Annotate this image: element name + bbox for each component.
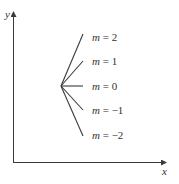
x-axis-label: x [161,165,167,177]
line-m-neg1 [61,86,83,110]
line-m-2 [61,34,83,86]
label-m-2: m = 2 [92,31,117,43]
slope-lines [61,34,83,136]
line-m-1 [61,61,83,86]
y-axis-label: y [4,8,10,20]
line-m-neg2 [61,86,83,136]
slope-labels: m = 2 m = 1 m = 0 m = −1 m = −2 [92,31,123,141]
slope-diagram: y x m = 2 m = 1 m = 0 m = −1 m = −2 [0,0,179,184]
label-m-1: m = 1 [92,55,117,67]
label-m-neg2: m = −2 [92,129,123,141]
label-m-neg1: m = −1 [92,104,123,116]
label-m-0: m = 0 [92,80,118,92]
